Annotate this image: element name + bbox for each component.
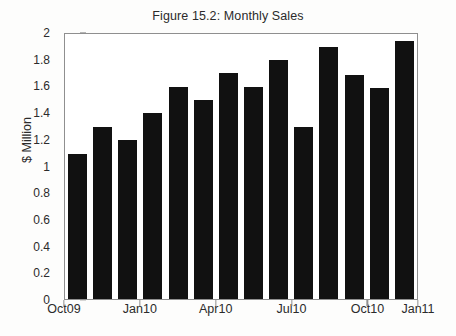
- bar: [118, 140, 137, 299]
- bar: [244, 87, 263, 299]
- plot-area: [64, 33, 418, 300]
- x-axis-tick-mark: [215, 300, 216, 306]
- x-axis-tick-mark: [417, 300, 418, 306]
- bar: [395, 41, 414, 299]
- x-axis-tick-mark: [63, 300, 64, 306]
- x-axis-tick-mark: [367, 300, 368, 306]
- bar: [345, 75, 364, 299]
- y-axis-tick-label: 1.4: [33, 106, 50, 120]
- y-axis-tick-label: 1.8: [33, 53, 50, 67]
- bar: [319, 47, 338, 299]
- bar: [370, 88, 389, 299]
- bar: [169, 87, 188, 299]
- x-axis-tick-mark: [139, 300, 140, 306]
- y-axis-tick-label: 0.8: [33, 186, 50, 200]
- bar: [93, 127, 112, 299]
- y-axis-tick-label: 1.2: [33, 133, 50, 147]
- bar: [194, 100, 213, 299]
- chart-title: Figure 15.2: Monthly Sales: [0, 9, 456, 23]
- x-axis-tick-mark: [291, 300, 292, 306]
- bar: [294, 127, 313, 299]
- y-axis-tick-labels: 00.20.40.60.811.21.41.61.82: [22, 33, 58, 300]
- y-axis-tick-label: 0.2: [33, 266, 50, 280]
- bar: [143, 113, 162, 299]
- bar: [269, 60, 288, 299]
- figure-container: Figure 15.2: Monthly Sales $ Million 00.…: [0, 0, 456, 336]
- y-axis-tick-label: 0.4: [33, 240, 50, 254]
- bar: [219, 73, 238, 299]
- y-axis-tick-label: 1.6: [33, 79, 50, 93]
- bar-series: [65, 34, 417, 299]
- y-axis-tick-label: 0.6: [33, 213, 50, 227]
- y-axis-tick-label: 2: [43, 26, 50, 40]
- y-axis-tick-label: 1: [43, 160, 50, 174]
- bar: [68, 154, 87, 300]
